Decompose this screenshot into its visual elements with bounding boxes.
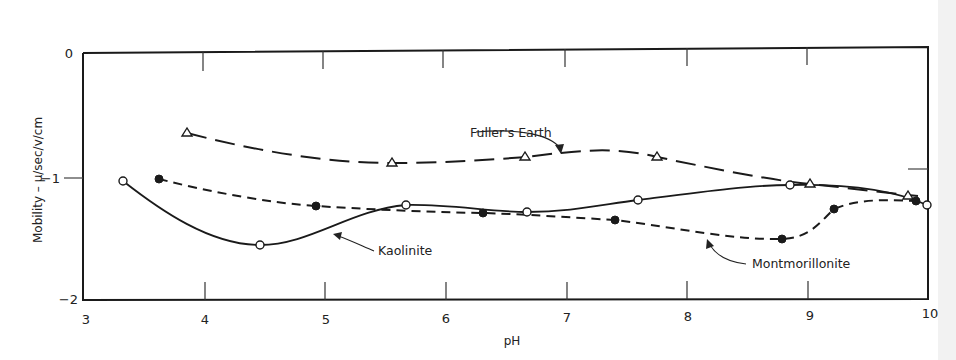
x-tick-label: 9	[806, 308, 814, 323]
annotation-montmorillonite: Montmorillonite	[706, 239, 851, 271]
y-tick-label: −2	[59, 292, 78, 307]
x-tick-label: 7	[563, 310, 571, 325]
x-tick-label: 4	[201, 312, 209, 327]
montmorillonite-label: Montmorillonite	[752, 256, 851, 271]
x-tick-label: 3	[82, 312, 90, 327]
y-tick-labels: 0 −1 −2	[41, 46, 78, 307]
arrowhead-icon	[333, 232, 342, 240]
kaolinite-markers	[119, 177, 931, 249]
x-tick-label: 5	[322, 312, 330, 327]
bottom-ticks	[205, 281, 808, 300]
x-tick-labels: 3 4 5 6 7 8 9 10	[82, 306, 938, 327]
x-tick-label: 10	[922, 306, 939, 321]
x-tick-label: 6	[442, 311, 450, 326]
kaolinite-label: Kaolinite	[378, 243, 433, 258]
x-tick-label: 8	[684, 309, 692, 324]
annotation-fullers-earth: Fuller's Earth	[470, 125, 564, 154]
y-axis-title: Mobility – μ/sec/v/cm	[31, 117, 45, 243]
y-ticks	[64, 169, 928, 178]
montmorillonite-curve	[159, 179, 916, 239]
y-tick-label: 0	[65, 46, 73, 61]
x-axis-title: pH	[504, 334, 521, 348]
fullers-earth-label: Fuller's Earth	[470, 125, 552, 140]
mobility-ph-chart: 0 −1 −2 3 4 5 6 7 8 9 10 pH Mobility – μ…	[0, 0, 956, 360]
annotation-kaolinite: Kaolinite	[333, 232, 433, 258]
arrowhead-icon	[706, 239, 714, 249]
